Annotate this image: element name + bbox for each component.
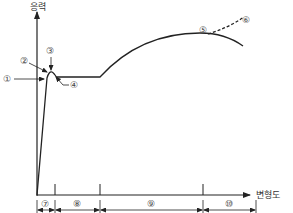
point-label-1: ① <box>3 74 11 84</box>
pointer-4 <box>56 77 69 85</box>
pointer-2 <box>29 63 47 72</box>
x-axis-label: 변형도 <box>256 190 280 200</box>
region-label-9: ⑨ <box>147 199 155 209</box>
region-label-8: ⑧ <box>73 199 81 209</box>
point-label-6: ⑥ <box>242 15 250 25</box>
point-label-5: ⑤ <box>199 25 207 35</box>
y-axis-label: 응력 <box>30 1 46 12</box>
point-label-3: ③ <box>46 46 54 56</box>
dashed-extension <box>208 17 244 34</box>
point-label-2: ② <box>20 56 28 66</box>
point-label-4: ④ <box>70 80 78 90</box>
region-label-7: ⑦ <box>41 199 49 209</box>
stress-strain-curve <box>37 33 243 195</box>
stress-strain-diagram: 응력 변형도 ① ② ③ ④ ⑤ ⑥ ⑦ ⑧ ⑨ ⑩ <box>0 0 293 213</box>
region-label-10: ⑩ <box>225 199 233 209</box>
